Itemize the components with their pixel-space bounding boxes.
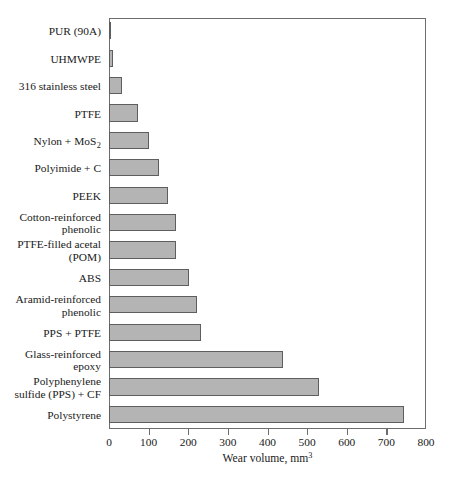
bar[interactable] [109, 406, 404, 423]
x-axis-tick [307, 429, 308, 435]
bar[interactable] [109, 378, 319, 395]
category-label: 316 stainless steel [0, 80, 105, 93]
category-label: ABS [0, 272, 105, 285]
bar[interactable] [109, 214, 176, 231]
category-label: Cotton-reinforcedphenolic [0, 211, 105, 236]
bar-row [109, 128, 426, 155]
category-label: Polystyrene [0, 409, 105, 422]
x-axis-tick-label: 500 [299, 436, 316, 449]
category-label: UHMWPE [0, 53, 105, 66]
bar[interactable] [109, 159, 159, 176]
bar[interactable] [109, 77, 122, 94]
bar-row [109, 45, 426, 72]
bar-row [109, 265, 426, 292]
bar-row [109, 155, 426, 182]
bar[interactable] [109, 187, 168, 204]
bar-row [109, 292, 426, 319]
x-axis-tick-label: 600 [338, 436, 355, 449]
bar-row [109, 237, 426, 264]
bar[interactable] [109, 324, 201, 341]
bars-layer [109, 18, 426, 429]
bar[interactable] [109, 104, 138, 121]
category-label: Polyphenylenesulfide (PPS) + CF [0, 375, 105, 400]
category-label: Aramid-reinforcedphenolic [0, 293, 105, 318]
bar-row [109, 210, 426, 237]
category-axis-labels: PUR (90A)UHMWPE316 stainless steelPTFENy… [0, 18, 105, 429]
bar[interactable] [109, 269, 189, 286]
category-label: Nylon + MoS2 [0, 135, 105, 150]
wear-volume-bar-chart: PUR (90A)UHMWPE316 stainless steelPTFENy… [0, 0, 451, 483]
x-axis-title: Wear volume, mm3 [109, 452, 426, 465]
x-axis-tick-label: 400 [259, 436, 276, 449]
bar-row [109, 73, 426, 100]
bar-row [109, 319, 426, 346]
bar-row [109, 347, 426, 374]
x-axis-tick [386, 429, 387, 435]
bar-row [109, 182, 426, 209]
category-label: PEEK [0, 190, 105, 203]
x-axis-tick [347, 429, 348, 435]
bar[interactable] [109, 351, 283, 368]
x-axis-tick-label: 700 [378, 436, 395, 449]
category-label: Glass-reinforcedepoxy [0, 348, 105, 373]
bar-row [109, 18, 426, 45]
bar[interactable] [109, 132, 149, 149]
x-axis-tick [268, 429, 269, 435]
category-label: PUR (90A) [0, 25, 105, 38]
x-axis-tick [149, 429, 150, 435]
x-axis-tick-label: 800 [417, 436, 434, 449]
bar[interactable] [109, 241, 176, 258]
bar-row [109, 100, 426, 127]
x-axis-tick [228, 429, 229, 435]
bar[interactable] [109, 22, 111, 39]
category-label: PTFE [0, 108, 105, 121]
x-axis-tick-label: 300 [219, 436, 236, 449]
bar[interactable] [109, 296, 197, 313]
category-label: PTFE-filled acetal(POM) [0, 238, 105, 263]
x-axis-tick [188, 429, 189, 435]
bar[interactable] [109, 50, 113, 67]
x-axis-tick-label: 100 [140, 436, 157, 449]
bar-row [109, 374, 426, 401]
bar-row [109, 402, 426, 429]
x-axis-tick-label: 200 [180, 436, 197, 449]
category-label: Polyimide + C [0, 162, 105, 175]
category-label: PPS + PTFE [0, 327, 105, 340]
x-axis-tick-label: 0 [106, 436, 112, 449]
